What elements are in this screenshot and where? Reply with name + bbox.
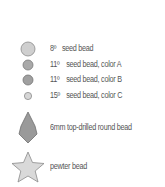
legend-label: 11ºseed bead, color B	[50, 74, 122, 84]
bead-legend: 8ºseed bead 11ºseed bead, color A 11ºsee…	[0, 0, 165, 187]
legend-item-11-seed-bead-a: 11ºseed bead, color A	[0, 59, 165, 71]
medium-circle-icon	[22, 74, 34, 86]
medium-circle-icon	[22, 59, 34, 71]
legend-item-teardrop-bead: 6mm top-drilled round bead	[0, 111, 165, 145]
large-circle-icon	[20, 41, 36, 57]
legend-label: 8ºseed bead	[50, 43, 93, 53]
small-circle-icon	[23, 91, 33, 101]
teardrop-icon	[16, 111, 40, 145]
legend-label: 11ºseed bead, color A	[50, 59, 121, 69]
star-icon	[10, 150, 46, 184]
legend-label: 15ºseed bead, color C	[50, 90, 122, 100]
legend-label: pewter bead	[50, 161, 87, 171]
legend-label: 6mm top-drilled round bead	[50, 122, 132, 132]
legend-item-15-seed-bead-c: 15ºseed bead, color C	[0, 91, 165, 101]
legend-item-pewter-bead: pewter bead	[0, 150, 165, 184]
legend-item-8-seed-bead: 8ºseed bead	[0, 41, 165, 57]
legend-item-11-seed-bead-b: 11ºseed bead, color B	[0, 74, 165, 86]
